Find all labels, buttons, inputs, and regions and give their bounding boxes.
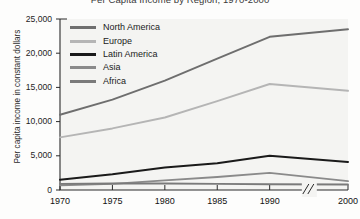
plot-area xyxy=(0,0,360,219)
legend-swatch-icon xyxy=(70,40,96,43)
legend-label: Europe xyxy=(103,37,132,46)
legend-item-asia[interactable]: Asia xyxy=(70,61,160,74)
legend-swatch-icon xyxy=(70,53,96,56)
legend-item-africa[interactable]: Africa xyxy=(70,75,160,88)
legend-label: Asia xyxy=(103,63,121,72)
legend-swatch-icon xyxy=(70,80,96,83)
legend-label: North America xyxy=(103,23,160,32)
legend-label: Latin America xyxy=(103,50,158,59)
chart-legend: North AmericaEuropeLatin AmericaAsiaAfri… xyxy=(70,21,160,88)
legend-item-latin-america[interactable]: Latin America xyxy=(70,48,160,61)
axis-break-icon xyxy=(302,183,317,197)
legend-item-europe[interactable]: Europe xyxy=(70,34,160,47)
legend-item-north-america[interactable]: North America xyxy=(70,21,160,34)
legend-swatch-icon xyxy=(70,66,96,69)
legend-swatch-icon xyxy=(70,26,96,29)
legend-label: Africa xyxy=(103,77,126,86)
chart-container: Per Capita Income by Region, 1970-2000 P… xyxy=(0,0,360,219)
axis-break-mask xyxy=(302,183,317,197)
